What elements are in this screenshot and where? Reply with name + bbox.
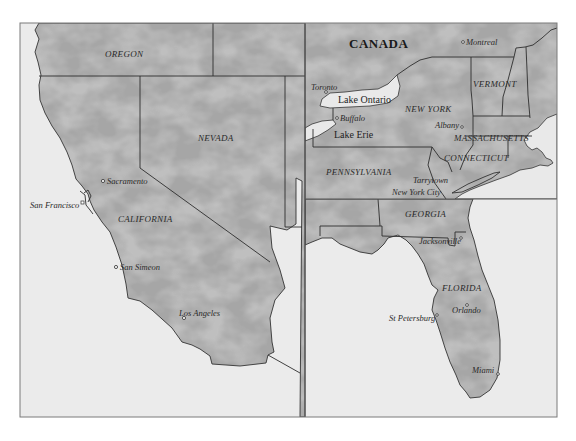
city-dot-toronto (325, 91, 328, 94)
label-connecticut: CONNECTICUT (444, 153, 510, 163)
label-georgia: GEORGIA (405, 209, 446, 219)
southeast-panel: GEORGIA Jacksonville FLORIDA Orlando St … (305, 199, 557, 417)
label-montreal: Montreal (465, 37, 498, 47)
label-san-francisco: San Francisco (30, 200, 79, 210)
label-oregon: OREGON (105, 49, 144, 59)
label-albany: Albany (434, 120, 459, 130)
city-dot-albany (461, 126, 464, 129)
city-dot-san-simeon (114, 265, 117, 268)
label-lake-erie: Lake Erie (334, 129, 374, 140)
label-new-york-city: New York City (391, 187, 441, 197)
label-miami: Miami (471, 365, 495, 375)
label-new-york: NEW YORK (404, 104, 452, 114)
city-dot-san-francisco (81, 201, 84, 204)
label-lake-ontario: Lake Ontario (338, 94, 391, 105)
label-toronto: Toronto (311, 82, 337, 92)
label-st-petersburg: St Petersburg (389, 313, 435, 323)
city-dot-sacramento (101, 179, 104, 182)
west-panel: OREGON NEVADA CALIFORNIA Sacramento San … (20, 23, 305, 417)
label-vermont: VERMONT (473, 79, 517, 89)
city-dot-st-petersburg (436, 314, 439, 317)
map-figure: OREGON NEVADA CALIFORNIA Sacramento San … (0, 0, 576, 441)
label-canada: CANADA (349, 36, 408, 51)
label-california: CALIFORNIA (118, 214, 173, 224)
label-sacramento: Sacramento (107, 176, 148, 186)
city-dot-miami (497, 373, 500, 376)
label-pennsylvania: PENNSYLVANIA (325, 167, 392, 177)
city-dot-jacksonville (460, 237, 463, 240)
label-buffalo: Buffalo (340, 113, 365, 123)
label-tarrytown: Tarrytown (413, 175, 448, 185)
label-los-angeles: Los Angeles (178, 308, 221, 318)
label-san-simeon: San Simeon (120, 262, 160, 272)
label-jacksonville: Jacksonville (419, 236, 461, 246)
northeast-panel: CANADA Montreal Toronto Lake Ontario Buf… (305, 23, 557, 199)
city-dot-montreal (462, 41, 465, 44)
label-nevada: NEVADA (197, 133, 234, 143)
label-florida: FLORIDA (441, 283, 482, 293)
label-orlando: Orlando (452, 305, 481, 315)
city-dot-buffalo (336, 117, 339, 120)
label-massachusetts: MASSACHUSETTS (453, 133, 529, 143)
map-svg: OREGON NEVADA CALIFORNIA Sacramento San … (0, 0, 576, 441)
